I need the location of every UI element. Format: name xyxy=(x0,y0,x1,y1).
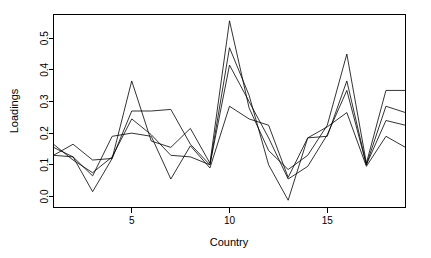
x-tick-label: 5 xyxy=(129,215,135,226)
chart-figure: 0.00.10.20.30.40.5 51015 Country Loading… xyxy=(0,0,431,258)
chart-background xyxy=(0,0,431,258)
y-axis-title: Loadings xyxy=(8,88,20,133)
y-tick-label: 0.3 xyxy=(39,94,50,108)
y-tick-label: 0.0 xyxy=(39,189,50,203)
y-tick-label: 0.2 xyxy=(39,126,50,140)
x-tick-label: 15 xyxy=(322,215,334,226)
y-tick-label: 0.1 xyxy=(39,157,50,171)
y-tick-label: 0.4 xyxy=(39,62,50,76)
loadings-line-chart: 0.00.10.20.30.40.5 51015 Country Loading… xyxy=(0,0,431,258)
y-tick-label: 0.5 xyxy=(39,31,50,45)
x-axis-title: Country xyxy=(210,236,249,248)
x-tick-label: 10 xyxy=(224,215,236,226)
